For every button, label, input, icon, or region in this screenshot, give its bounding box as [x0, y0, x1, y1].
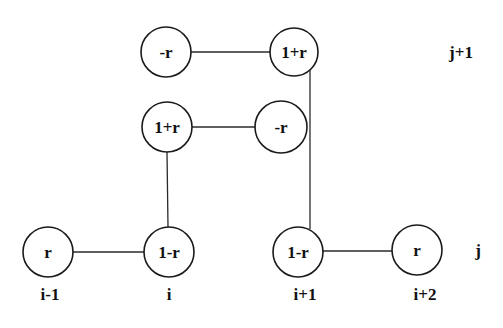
edges — [73, 52, 392, 252]
column-label-i-minus-1: i-1 — [41, 285, 60, 304]
row-label-j-plus-1: j+1 — [448, 43, 473, 62]
node-mid-left: 1+r — [142, 102, 192, 152]
node-label: 1-r — [158, 243, 180, 262]
column-label-i: i — [167, 285, 172, 304]
node-label: r — [44, 243, 52, 262]
stencil-diagram: -r 1+r 1+r -r r 1-r 1-r r — [0, 0, 503, 328]
node-top-right: 1+r — [270, 28, 318, 76]
edge-vertical-i — [167, 152, 168, 227]
node-mid-right: -r — [255, 101, 307, 153]
node-label: 1+r — [154, 118, 180, 137]
column-label-i-plus-2: i+2 — [414, 285, 437, 304]
node-label: -r — [274, 118, 288, 137]
node-label: 1+r — [281, 43, 307, 62]
row-labels: j+1 j — [448, 43, 481, 260]
node-label: -r — [159, 43, 173, 62]
node-top-left: -r — [141, 27, 191, 77]
node-bottom-i-plus-2: r — [392, 225, 442, 275]
node-bottom-i-minus-1: r — [23, 227, 73, 277]
node-label: r — [413, 241, 421, 260]
nodes: -r 1+r 1+r -r r 1-r 1-r r — [23, 27, 442, 277]
column-labels: i-1 i i+1 i+2 — [41, 285, 437, 304]
node-bottom-i-plus-1: 1-r — [273, 227, 323, 277]
node-bottom-i: 1-r — [144, 227, 194, 277]
node-label: 1-r — [287, 243, 309, 262]
row-label-j: j — [474, 241, 481, 260]
column-label-i-plus-1: i+1 — [294, 285, 317, 304]
